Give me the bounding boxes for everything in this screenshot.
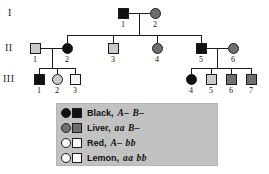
stem-ii-4 — [157, 35, 158, 43]
legend-row: Liver, aa B– — [61, 121, 217, 134]
legend-square-black-icon — [72, 108, 82, 118]
legend-circle-liver-icon — [61, 123, 71, 133]
individual-ii-3 — [108, 43, 119, 54]
legend-genotype-label: aa bb — [123, 153, 147, 163]
legend-genotype-label: A– bb — [111, 138, 136, 148]
legend-phenotype-label: Red, — [87, 138, 107, 148]
legend-circle-black-icon — [61, 108, 71, 118]
individual-ii-2 — [62, 43, 73, 54]
individual-i-1 — [118, 8, 129, 19]
individual-ii-6 — [228, 43, 239, 54]
individual-iii-3 — [70, 74, 81, 85]
individual-number-ii-2: 2 — [61, 55, 73, 64]
legend-square-red-icon — [72, 138, 82, 148]
generation-label-ii: II — [5, 42, 13, 53]
sibship-bar-gen-ii — [67, 35, 202, 36]
legend-phenotype-label: Black, — [87, 108, 114, 118]
individual-iii-5 — [206, 74, 217, 85]
generation-label-iii: III — [3, 73, 15, 84]
individual-number-ii-6: 6 — [227, 55, 239, 64]
individual-number-iii-1: 1 — [33, 86, 45, 95]
individual-iii-7 — [246, 74, 257, 85]
individual-iii-6 — [226, 74, 237, 85]
generation-label-i: I — [8, 7, 12, 18]
legend-genotype-label: A– B– — [118, 108, 145, 118]
individual-number-ii-4: 4 — [151, 55, 163, 64]
stem-ii-3 — [113, 35, 114, 43]
individual-iii-4 — [186, 74, 197, 85]
individual-number-ii-1: 1 — [29, 55, 41, 64]
legend-box: Black, A– B– Liver, aa B– Red, A– bb Lem… — [56, 103, 218, 166]
descent-line-ii-1-ii-2 — [52, 48, 53, 68]
legend-phenotype-label: Liver, — [87, 123, 111, 133]
stem-ii-2 — [67, 35, 68, 43]
individual-ii-4 — [152, 43, 163, 54]
individual-number-iii-3: 3 — [69, 86, 81, 95]
individual-number-iii-5: 5 — [205, 86, 217, 95]
legend-square-lemon-icon — [72, 153, 82, 163]
legend-row: Lemon, aa bb — [61, 151, 217, 164]
legend-row: Red, A– bb — [61, 136, 217, 149]
individual-ii-5 — [196, 43, 207, 54]
individual-number-ii-3: 3 — [107, 55, 119, 64]
individual-number-i-2: 2 — [149, 20, 161, 29]
legend-square-liver-icon — [72, 123, 82, 133]
sibship-bar-gen-iii-right — [191, 68, 251, 69]
individual-number-ii-5: 5 — [195, 55, 207, 64]
individual-iii-2 — [52, 74, 63, 85]
individual-ii-1 — [30, 43, 41, 54]
legend-circle-lemon-icon — [61, 153, 71, 163]
legend-phenotype-label: Lemon, — [87, 153, 119, 163]
individual-number-iii-6: 6 — [225, 86, 237, 95]
legend-genotype-label: aa B– — [115, 123, 140, 133]
individual-iii-1 — [34, 74, 45, 85]
legend-circle-red-icon — [61, 138, 71, 148]
individual-number-iii-4: 4 — [185, 86, 197, 95]
stem-ii-5 — [201, 35, 202, 43]
legend-row: Black, A– B– — [61, 106, 217, 119]
individual-number-iii-7: 7 — [245, 86, 257, 95]
descent-line-ii-5-ii-6 — [217, 48, 218, 68]
pedigree-figure: I II III 121234561234567 Black, A– B– — [0, 0, 269, 174]
descent-line-gen-i — [139, 13, 140, 35]
individual-number-i-1: 1 — [117, 20, 129, 29]
individual-number-iii-2: 2 — [51, 86, 63, 95]
individual-i-2 — [150, 8, 161, 19]
